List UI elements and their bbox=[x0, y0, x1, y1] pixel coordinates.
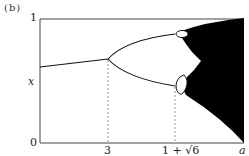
bifurcation-diagram bbox=[0, 0, 249, 156]
fixed-point-branch bbox=[40, 59, 108, 67]
upper-period2-branch bbox=[108, 34, 175, 59]
y-tick-0: 0 bbox=[30, 136, 37, 149]
x-axis-variable: a bbox=[239, 144, 246, 156]
chaotic-region bbox=[178, 18, 244, 143]
upper-period4-loop bbox=[176, 31, 188, 38]
y-axis-variable: x bbox=[28, 75, 34, 88]
lower-period2-branch bbox=[108, 59, 175, 86]
x-tick-3: 3 bbox=[104, 144, 111, 156]
y-tick-1: 1 bbox=[30, 11, 37, 24]
x-tick-1-plus-sqrt6: 1 + √6 bbox=[162, 144, 199, 156]
